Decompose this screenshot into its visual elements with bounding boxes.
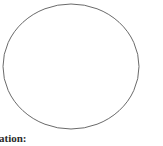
circle-shape (3, 4, 139, 129)
caption-text: ation: (0, 132, 27, 145)
figure-area (0, 0, 163, 131)
circle-outline-icon (0, 0, 163, 131)
caption-line: ation: (0, 131, 163, 146)
page-canvas: ation: (0, 0, 163, 146)
